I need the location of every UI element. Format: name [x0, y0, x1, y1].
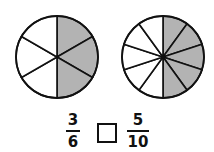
numerator: 3 — [68, 113, 78, 128]
comparison-answer-box[interactable] — [97, 123, 117, 143]
denominator: 10 — [128, 135, 149, 150]
fraction-bar — [127, 130, 149, 132]
fraction-left: 3 6 — [66, 113, 80, 150]
fraction-right: 5 10 — [127, 113, 149, 150]
pie-sixths — [16, 16, 98, 98]
pie-tenths — [122, 16, 204, 98]
fraction-bar — [66, 130, 80, 132]
numerator: 5 — [133, 113, 143, 128]
denominator: 6 — [68, 135, 78, 150]
fraction-circles — [0, 0, 214, 105]
